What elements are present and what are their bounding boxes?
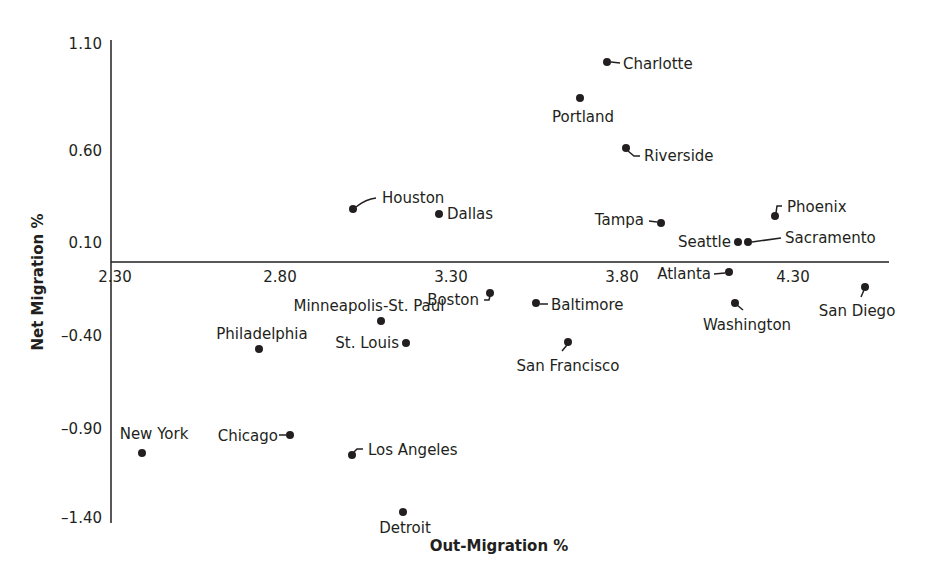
data-point: Philadelphia [216,325,307,353]
point-label: New York [120,425,189,443]
point-marker [255,345,263,353]
x-tick-label: 2.80 [263,268,296,286]
leader-line [628,151,640,156]
data-point: Tampa [594,211,665,229]
data-point: Los Angeles [348,441,458,459]
point-marker [657,219,665,227]
point-label: Riverside [644,147,714,165]
y-tick-label: 0.60 [69,142,102,160]
leader-line [562,345,567,351]
data-points: CharlottePortlandRiversideHoustonDallasT… [120,55,896,537]
point-marker [348,451,356,459]
point-marker [532,299,540,307]
point-label: Philadelphia [216,325,307,343]
point-label: Washington [703,316,791,334]
point-label: San Diego [819,302,896,320]
data-point: New York [120,425,189,457]
data-point: Sacramento [744,229,876,247]
x-tick-label: 4.30 [776,268,809,286]
point-label: San Francisco [516,357,619,375]
y-axis-ticks: 1.100.600.10–0.40–0.90–1.40 [61,35,102,527]
x-tick-label: 3.30 [434,268,467,286]
y-axis-title: Net Migration % [29,214,47,351]
point-label: Portland [552,108,614,126]
point-marker [399,508,407,516]
data-point: Atlanta [657,265,733,283]
point-label: Baltimore [551,296,624,314]
leader-line [752,238,781,242]
data-point: Minneapolis-St. Paul [294,297,445,325]
point-marker [564,338,572,346]
point-label: Detroit [379,519,431,537]
y-tick-label: –0.90 [61,420,102,438]
point-label: Charlotte [623,55,693,73]
data-point: Riverside [622,144,714,165]
data-point: San Francisco [516,338,619,375]
leader-line [714,273,725,274]
data-point: St. Louis [335,334,410,352]
leader-line [354,449,363,452]
point-label: Dallas [447,205,493,223]
point-label: Sacramento [785,229,876,247]
point-label: Minneapolis-St. Paul [294,297,445,315]
point-marker [861,283,869,291]
data-point: Dallas [435,205,493,223]
data-point: Charlotte [603,55,693,73]
leader-line [861,290,864,297]
point-marker [576,94,584,102]
point-marker [603,58,611,66]
point-marker [349,205,357,213]
leader-line [611,62,620,63]
point-label: Tampa [594,211,644,229]
point-label: St. Louis [335,334,399,352]
point-label: Atlanta [657,265,711,283]
point-marker [435,210,443,218]
data-point: Detroit [379,508,431,537]
point-label: Seattle [678,233,731,251]
leader-line [649,221,657,222]
data-point: Phoenix [771,198,847,220]
x-tick-label: 2.30 [98,268,131,286]
point-label: Houston [382,189,444,207]
point-marker [138,449,146,457]
point-marker [622,144,630,152]
point-marker [286,431,294,439]
point-marker [377,317,385,325]
scatter-chart: 2.302.803.303.804.30 1.100.600.10–0.40–0… [0,0,929,582]
point-label: Los Angeles [368,441,458,459]
data-point: San Diego [819,283,896,320]
y-tick-label: 0.10 [69,234,102,252]
x-tick-label: 3.80 [605,268,638,286]
point-marker [486,289,494,297]
point-marker [771,212,779,220]
point-marker [734,238,742,246]
data-point: Washington [703,299,791,334]
data-point: Portland [552,94,614,126]
point-marker [725,268,733,276]
y-tick-label: –1.40 [61,509,102,527]
y-tick-label: 1.10 [69,35,102,53]
point-label: Chicago [218,427,278,445]
leader-line [356,198,376,207]
data-point: Houston [349,189,444,213]
leader-line [776,206,782,213]
y-tick-label: –0.40 [61,327,102,345]
data-point: Chicago [218,427,294,445]
point-label: Phoenix [787,198,847,216]
point-marker [402,339,410,347]
x-axis-title: Out-Migration % [430,537,569,555]
data-point: Baltimore [532,296,624,314]
point-marker [744,238,752,246]
point-marker [731,299,739,307]
data-point: Seattle [678,233,742,251]
